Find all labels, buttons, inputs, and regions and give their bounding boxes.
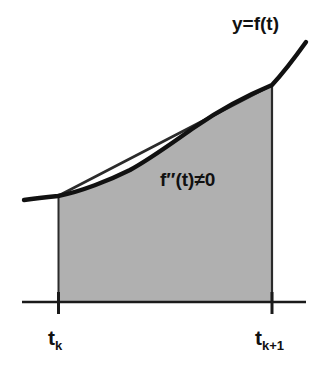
trapezoid-error-figure: y=f(t) f″(t)≠0 tk tk+1 [0, 0, 324, 374]
shaded-integral-region [58, 85, 272, 302]
second-derivative-annotation: f″(t)≠0 [160, 169, 215, 190]
tick-label-right-subscript: k+1 [262, 338, 284, 353]
tick-label-right: tk+1 [255, 326, 284, 353]
tick-label-left: tk [48, 326, 63, 353]
tick-label-left-base: t [48, 326, 55, 349]
tick-label-left-subscript: k [55, 338, 63, 353]
tick-label-right-base: t [255, 326, 262, 349]
curve-label: y=f(t) [232, 13, 279, 34]
figure-canvas: y=f(t) f″(t)≠0 tk tk+1 [0, 0, 324, 374]
